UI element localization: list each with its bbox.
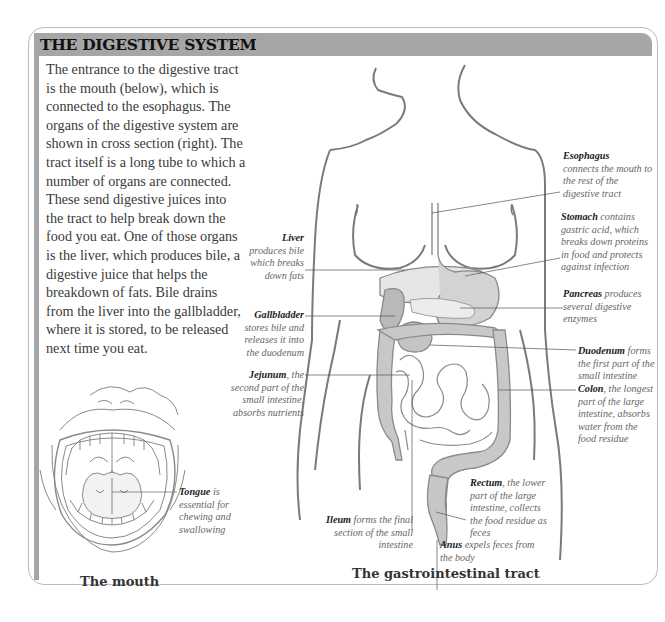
label-esophagus-text: connects the mouth to the rest of the di… (563, 163, 652, 199)
label-anus-name: Anus (440, 539, 462, 550)
label-rectum: Rectum, the lower part of the large inte… (470, 477, 552, 540)
label-rectum-name: Rectum (470, 477, 502, 488)
label-liver: Liverproduces bile which breaks down fat… (240, 232, 304, 282)
label-esophagus-name: Esophagus (563, 150, 609, 161)
label-tongue: Tongue is essential for chewing and swal… (179, 486, 239, 536)
label-colon-name: Colon (578, 383, 603, 394)
label-liver-text: produces bile which breaks down fats (249, 245, 304, 281)
label-colon: Colon, the longest part of the large int… (578, 383, 658, 446)
mouth-illustration (40, 387, 185, 552)
mouth-caption: The mouth (80, 574, 159, 589)
label-duodenum: Duodenum forms the first part of the sma… (578, 345, 658, 383)
tract-caption: The gastrointestinal tract (352, 566, 540, 581)
label-esophagus: Esophagus connects the mouth to the rest… (563, 150, 655, 200)
label-pancreas: Pancreas produces several digestive enzy… (563, 288, 657, 326)
label-anus: Anus expels feces from the body (440, 539, 540, 564)
label-ileum-name: Ileum (326, 514, 351, 525)
label-tongue-name: Tongue (179, 486, 210, 497)
small-intestine (396, 355, 492, 450)
label-duodenum-name: Duodenum (578, 345, 625, 356)
label-gallbladder-name: Gallbladder (254, 309, 304, 320)
label-stomach: Stomach contains gastric acid, which bre… (561, 211, 657, 274)
label-jejunum: Jejunum, the second part of the small in… (229, 369, 304, 419)
label-ileum: Ileum forms the final section of the sma… (305, 514, 413, 552)
label-pancreas-name: Pancreas (563, 288, 602, 299)
label-liver-name: Liver (282, 232, 304, 243)
label-stomach-name: Stomach (561, 211, 598, 222)
label-jejunum-name: Jejunum (249, 369, 286, 380)
label-gallbladder-text: stores bile and releases it into the duo… (244, 322, 304, 358)
label-gallbladder: Gallbladderstores bile and releases it i… (240, 309, 304, 359)
